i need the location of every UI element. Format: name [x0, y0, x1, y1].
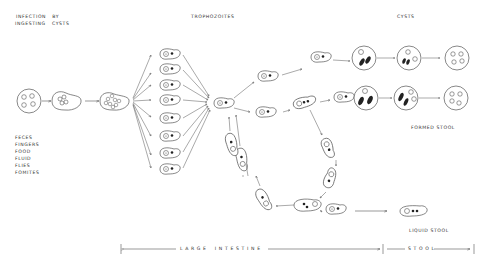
excysting-cyst	[52, 92, 81, 110]
cyst-row-2	[354, 86, 468, 110]
central-trophozoite	[214, 98, 234, 108]
metacyst	[100, 93, 129, 110]
cyst-row-1	[352, 46, 469, 70]
region-bars	[121, 244, 474, 254]
life-cycle-diagram	[0, 0, 486, 267]
trophozoite-loop	[224, 115, 427, 216]
ingested-cyst	[17, 89, 41, 113]
